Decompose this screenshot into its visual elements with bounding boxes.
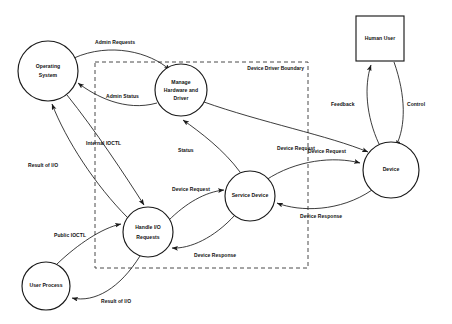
edge-status: [183, 120, 240, 172]
operating-system-label-line1: Operating: [36, 63, 61, 69]
edge-label-internal-ioctl: Internal IOCTL: [86, 140, 121, 146]
edge-label-device-response-service: Device Response: [300, 213, 342, 219]
edge-feedback: [367, 65, 379, 144]
user-process-label: User Process: [29, 282, 62, 288]
dataflow-diagram: Device Driver Boundary Admin Requests Ad…: [0, 0, 452, 324]
edge-device-request-driver: [168, 190, 224, 221]
node-user-process[interactable]: User Process: [22, 262, 70, 310]
edge-result-of-io-user: [72, 256, 140, 299]
edge-device-request-service: [266, 160, 360, 180]
human-user-label: Human User: [365, 35, 396, 41]
handle-io-requests-circle[interactable]: [123, 207, 173, 257]
handle-io-requests-label-line2: Requests: [136, 234, 159, 240]
device-label: Device: [383, 166, 400, 172]
edge-result-of-io-os: [52, 104, 128, 218]
edge-device-response-service: [277, 190, 372, 209]
operating-system-circle[interactable]: [18, 41, 78, 101]
edge-public-ioctl: [57, 224, 121, 264]
edge-label-device-request-driver: Device Request: [172, 186, 210, 192]
node-human-user[interactable]: Human User: [356, 16, 404, 61]
node-handle-io-requests[interactable]: Handle I/O Requests: [123, 207, 173, 257]
node-service-device[interactable]: Service Device: [225, 171, 275, 221]
handle-io-requests-label-line1: Handle I/O: [135, 224, 161, 230]
diagram-canvas: Device Driver Boundary Admin Requests Ad…: [0, 0, 452, 324]
edge-control: [394, 62, 403, 146]
edge-label-status: Status: [178, 147, 194, 153]
edge-label-device-request-service: Device Request: [308, 148, 346, 154]
device-driver-boundary-label: Device Driver Boundary: [247, 65, 304, 71]
manage-hardware-and-driver-label-line1: Manage: [171, 79, 190, 85]
manage-hardware-and-driver-label-line3: Driver: [173, 95, 188, 101]
manage-hardware-and-driver-label-line2: Hardware and: [164, 87, 198, 93]
edge-device-response-driver: [172, 215, 235, 248]
edge-label-control: Control: [407, 101, 426, 107]
service-device-label: Service Device: [232, 192, 269, 198]
edge-admin-requests: [74, 50, 170, 70]
edge-label-feedback: Feedback: [331, 101, 355, 107]
operating-system-label-line2: System: [39, 72, 58, 78]
edge-label-result-of-io-os: Result of I/O: [28, 162, 58, 168]
node-manage-hardware-and-driver[interactable]: Manage Hardware and Driver: [155, 64, 207, 116]
edge-label-admin-status: Admin Status: [106, 93, 139, 99]
edge-internal-ioctl: [67, 95, 144, 205]
edge-label-public-ioctl: Public IOCTL: [54, 232, 86, 238]
edge-label-device-response-driver: Device Response: [194, 252, 236, 258]
edge-label-result-of-io-user: Result of I/O: [101, 298, 131, 304]
node-operating-system[interactable]: Operating System: [18, 41, 78, 101]
node-device[interactable]: Device: [363, 142, 419, 198]
edge-label-admin-requests: Admin Requests: [95, 39, 135, 45]
